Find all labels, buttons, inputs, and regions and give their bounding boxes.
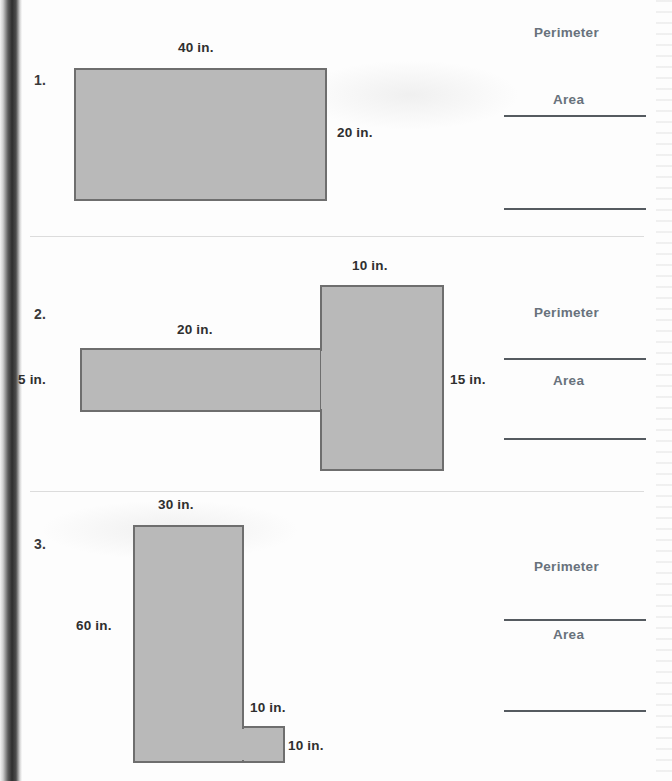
problem-3-tall-rectangle	[133, 525, 244, 763]
problem-2-dimension-tall-right: 15 in.	[450, 372, 486, 387]
problem-3-dimension-left: 60 in.	[76, 618, 112, 633]
problem-3-dimension-top: 30 in.	[158, 497, 194, 512]
problem-2-area-label: Area	[553, 373, 584, 388]
problem-1-area-label: Area	[553, 92, 584, 107]
problem-1-dimension-top: 40 in.	[178, 40, 214, 55]
problem-number-3: 3.	[34, 536, 46, 552]
problem-3-joint-seam	[242, 729, 246, 760]
problem-divider-2	[30, 491, 644, 492]
problem-divider-1	[30, 236, 644, 237]
problem-2-joint-seam	[321, 351, 327, 409]
scan-artifact-strip	[656, 0, 672, 781]
problem-3-area-label: Area	[553, 627, 584, 642]
problem-3-perimeter-blank[interactable]	[504, 619, 646, 621]
problem-2-area-blank[interactable]	[504, 438, 646, 440]
problem-2-dimension-bar-left: 5 in.	[18, 372, 46, 387]
problem-3-area-blank[interactable]	[504, 710, 646, 712]
problem-1-perimeter-blank[interactable]	[504, 115, 646, 117]
problem-2-dimension-tall-top: 10 in.	[352, 258, 388, 273]
problem-2-perimeter-blank[interactable]	[504, 358, 646, 360]
problem-1-area-blank[interactable]	[504, 208, 646, 210]
problem-3-perimeter-label: Perimeter	[534, 559, 599, 574]
problem-2-tall-rectangle	[320, 285, 444, 471]
problem-2-dimension-bar-top: 20 in.	[177, 322, 213, 337]
problem-1-rectangle	[74, 68, 327, 201]
problem-3-dimension-notch-right: 10 in.	[288, 738, 324, 753]
worksheet-page: 1. 40 in. 20 in. Perimeter Area 2. 10 in…	[0, 0, 672, 781]
problem-1-dimension-right: 20 in.	[337, 125, 373, 140]
problem-2-perimeter-label: Perimeter	[534, 305, 599, 320]
problem-3-dimension-notch-top: 10 in.	[250, 700, 286, 715]
paper-texture-smudge	[300, 60, 520, 130]
problem-1-perimeter-label: Perimeter	[534, 25, 599, 40]
problem-2-horizontal-bar	[80, 348, 328, 412]
problem-3-notch-square	[242, 726, 285, 763]
book-binding-shadow	[0, 0, 22, 781]
problem-number-1: 1.	[34, 72, 46, 88]
problem-number-2: 2.	[34, 306, 46, 322]
